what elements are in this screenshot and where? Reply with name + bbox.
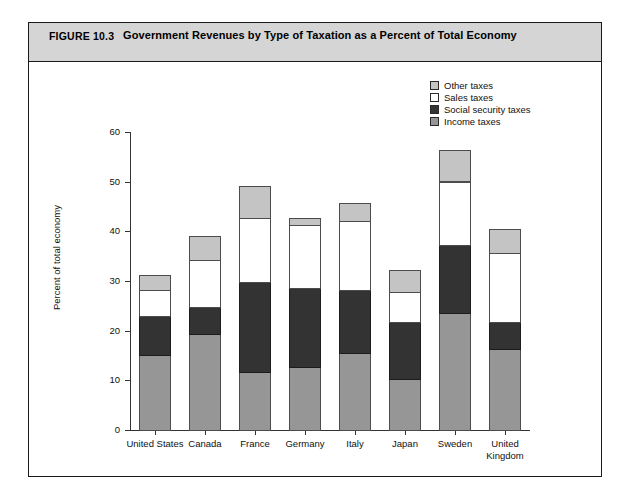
legend-item-sales: Sales taxes [430,91,570,103]
chart-legend: Other taxesSales taxesSocial security ta… [430,79,570,128]
legend-label: Income taxes [444,116,501,127]
legend-swatch-income-icon [430,117,439,126]
legend-swatch-other-icon [430,81,439,90]
legend-swatch-social-icon [430,105,439,114]
figure-title-bar: FIGURE 10.3 Government Revenues by Type … [29,23,601,62]
legend-item-income: Income taxes [430,116,570,128]
legend-label: Sales taxes [444,92,493,103]
figure-root: FIGURE 10.3 Government Revenues by Type … [0,0,630,503]
figure-title: Government Revenues by Type of Taxation … [123,29,583,43]
legend-item-other: Other taxes [430,79,570,91]
legend-item-social: Social security taxes [430,103,570,115]
figure-number-label: FIGURE 10.3 [49,30,114,42]
legend-label: Social security taxes [444,104,531,115]
legend-swatch-sales-icon [430,93,439,102]
legend-label: Other taxes [444,80,493,91]
